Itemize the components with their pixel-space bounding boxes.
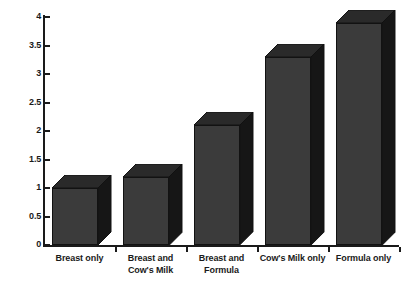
- plot-area: 00.511.522.533.54 Breast onlyBreast andC…: [0, 0, 413, 288]
- y-tick-label: 1: [9, 183, 41, 192]
- x-axis-label-line: Formula only: [324, 252, 403, 264]
- y-tick-label-wrap: 3: [3, 69, 41, 78]
- y-tick-mark: [45, 130, 50, 132]
- y-tick-label-wrap: 1.5: [3, 155, 41, 164]
- y-tick-label-wrap: 3.5: [3, 41, 41, 50]
- bar: [123, 164, 182, 245]
- bar-front-face: [52, 188, 98, 245]
- y-tick-label-wrap: 4: [3, 12, 41, 21]
- y-tick-label: 3: [9, 69, 41, 78]
- bar-side-face: [311, 44, 325, 245]
- y-tick-label: 3.5: [9, 41, 41, 50]
- bar: [194, 112, 253, 245]
- bar: [265, 44, 324, 245]
- x-axis-line: [43, 245, 399, 247]
- y-tick-label-wrap: 2.5: [3, 98, 41, 107]
- x-axis-label-line: Breast only: [40, 252, 119, 264]
- x-axis-label-line: Formula: [182, 264, 261, 276]
- bar-side-face: [240, 112, 254, 245]
- y-tick-label-wrap: 1: [3, 183, 41, 192]
- x-axis-label: Cow's Milk only: [253, 252, 332, 264]
- bar-side-face: [382, 10, 396, 245]
- y-tick-label: 0: [9, 240, 41, 249]
- x-axis-label-line: Cow's Milk only: [253, 252, 332, 264]
- y-tick-label: 2.5: [9, 98, 41, 107]
- x-axis-label-line: Cow's Milk: [111, 264, 190, 276]
- y-tick-mark: [45, 73, 50, 75]
- y-tick-label: 4: [9, 12, 41, 21]
- x-axis-label-line: Breast and: [111, 252, 190, 264]
- y-tick-label-wrap: 0: [3, 240, 41, 249]
- y-tick-label: 2: [9, 126, 41, 135]
- y-tick-mark: [45, 187, 50, 189]
- y-tick-mark: [45, 244, 50, 246]
- bar: [52, 175, 111, 245]
- y-tick-label-wrap: 2: [3, 126, 41, 135]
- bar-front-face: [265, 57, 311, 245]
- bar-front-face: [123, 177, 169, 245]
- x-axis-label: Formula only: [324, 252, 403, 264]
- bar-front-face: [194, 125, 240, 245]
- y-tick-mark: [45, 216, 50, 218]
- x-axis-label: Breast only: [40, 252, 119, 264]
- y-tick-mark: [45, 159, 50, 161]
- y-tick-mark: [45, 45, 50, 47]
- y-tick-label: 0.5: [9, 212, 41, 221]
- x-axis-label-line: Breast and: [182, 252, 261, 264]
- bar: [336, 10, 395, 245]
- y-tick-label: 1.5: [9, 155, 41, 164]
- bar-front-face: [336, 23, 382, 245]
- y-tick-mark: [45, 16, 50, 18]
- bar-chart: 00.511.522.533.54 Breast onlyBreast andC…: [0, 0, 413, 288]
- y-tick-mark: [45, 102, 50, 104]
- bar-side-face: [169, 164, 183, 245]
- x-axis-label: Breast andFormula: [182, 252, 261, 276]
- bar-side-face: [98, 175, 112, 245]
- x-axis-label: Breast andCow's Milk: [111, 252, 190, 276]
- y-tick-label-wrap: 0.5: [3, 212, 41, 221]
